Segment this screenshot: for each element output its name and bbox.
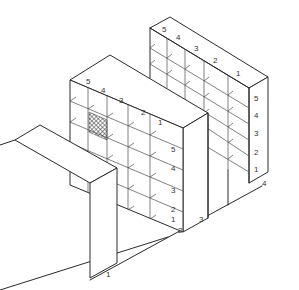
back-column-label: 4 [176, 33, 181, 42]
back-shelf-label: 5 [254, 94, 259, 103]
back-column-label: 2 [213, 56, 218, 65]
rail-label: 2 [178, 226, 183, 235]
middle-back-panel [208, 113, 228, 218]
back-shelf-label: 1 [254, 165, 259, 174]
front-shelf-label: 5 [171, 145, 176, 154]
rail-label: 4 [262, 179, 267, 188]
front-column-label: 2 [141, 108, 146, 117]
front-column-label: 5 [86, 77, 91, 86]
back-column-label: 3 [194, 44, 199, 53]
front-column-label: 3 [119, 96, 124, 105]
back-column-label: 1 [236, 69, 241, 78]
front-shelf-label: 2 [171, 205, 176, 214]
back-shelf-label: 4 [254, 111, 259, 120]
rail-label: 1 [106, 270, 111, 279]
front-column-label: 1 [158, 118, 163, 127]
front-shelf-label: 3 [171, 186, 176, 195]
front-column-label: 4 [101, 86, 106, 95]
shelving-diagram: 5 4 3 2 1 5 4 3 2 1 [0, 0, 299, 290]
front-shelf-label: 4 [171, 164, 176, 173]
back-shelf-label: 3 [254, 129, 259, 138]
rail-label: 3 [199, 215, 204, 224]
back-column-label: 5 [162, 25, 167, 34]
back-shelf-label: 2 [254, 148, 259, 157]
front-shelf-label: 1 [171, 215, 176, 224]
